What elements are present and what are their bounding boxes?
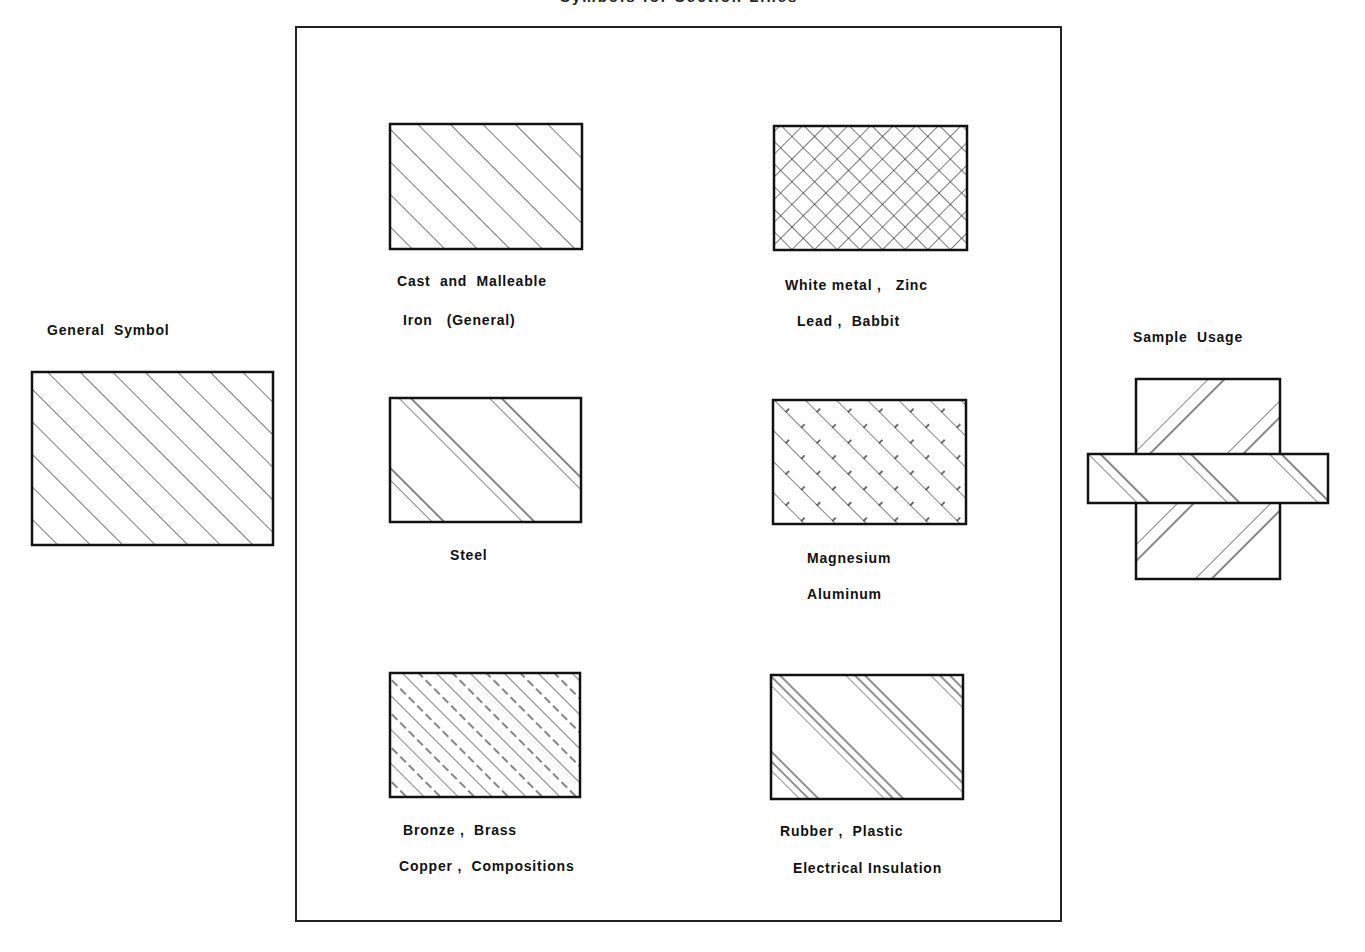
material-label: Aluminum — [807, 586, 882, 602]
material-label: Magnesium — [807, 550, 891, 566]
swatch-cast-iron — [390, 124, 582, 249]
material-label: Steel — [450, 547, 487, 563]
sample-usage-drawing — [1088, 379, 1328, 579]
sample-usage-label: Sample Usage — [1133, 329, 1243, 345]
general-symbol-swatch — [32, 372, 273, 545]
swatch-bronze — [390, 673, 580, 797]
material-label: Cast and Malleable — [397, 273, 547, 289]
material-label: Copper , Compositions — [399, 858, 575, 874]
swatch-magnesium — [773, 400, 966, 524]
material-label: Electrical Insulation — [793, 860, 942, 876]
general-symbol-label: General Symbol — [47, 322, 169, 338]
material-label: Bronze , Brass — [403, 822, 517, 838]
material-label: White metal , Zinc — [785, 277, 928, 293]
material-label: Lead , Babbit — [797, 313, 900, 329]
section-lines-diagram — [0, 0, 1365, 952]
material-label: Iron (General) — [403, 312, 515, 328]
swatch-rubber — [771, 675, 963, 799]
swatch-white-metal — [774, 126, 967, 250]
material-label: Rubber , Plastic — [780, 823, 903, 839]
swatch-steel — [390, 398, 581, 522]
